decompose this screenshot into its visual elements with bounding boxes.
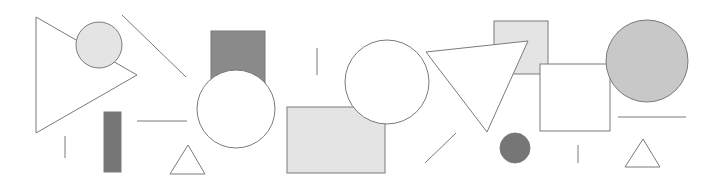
gray-circle xyxy=(606,20,688,102)
dark-tall-rectangle xyxy=(104,112,121,172)
small-triangle-1 xyxy=(170,145,205,174)
diagonal-line-2 xyxy=(425,133,456,163)
white-circle-1 xyxy=(197,70,275,148)
small-light-circle xyxy=(76,22,122,68)
large-triangle-right xyxy=(426,41,528,132)
diagonal-line-1 xyxy=(122,15,186,77)
white-circle-2 xyxy=(345,40,429,124)
small-triangle-2 xyxy=(625,139,660,167)
small-dark-circle xyxy=(500,133,530,163)
shapes-canvas xyxy=(0,0,726,185)
white-square xyxy=(540,64,610,131)
